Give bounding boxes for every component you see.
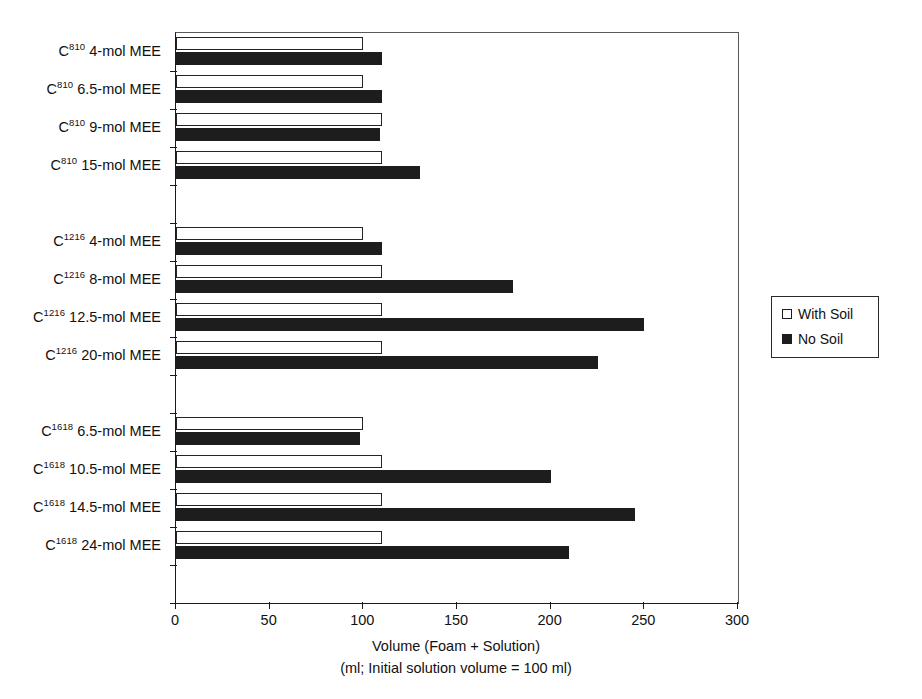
legend-item: No Soil: [782, 331, 843, 347]
legend-swatch-open-icon: [782, 309, 792, 319]
bar-no-soil: [176, 432, 360, 445]
y-axis-category-label: C1618 6.5-mol MEE: [0, 422, 167, 438]
category-suffix: 8-mol MEE: [85, 271, 161, 287]
category-prefix: C: [33, 499, 43, 515]
y-axis-tick: [170, 299, 177, 300]
y-axis-tick: [170, 451, 177, 452]
category-prefix: C: [59, 43, 69, 59]
plot-area: [175, 32, 739, 604]
category-prefix: C: [53, 271, 63, 287]
category-superscript: 1618: [52, 421, 74, 432]
bar-chart-figure: C810 4-mol MEEC810 6.5-mol MEEC810 9-mol…: [0, 0, 922, 699]
y-axis-category-label: C1216 4-mol MEE: [0, 232, 167, 248]
category-superscript: 1216: [64, 269, 86, 280]
x-axis-tick: [550, 602, 551, 609]
y-axis-category-label: C810 4-mol MEE: [0, 42, 167, 58]
category-suffix: 12.5-mol MEE: [65, 309, 161, 325]
x-axis-tick: [737, 602, 738, 609]
x-axis-tick-label: 300: [707, 612, 767, 628]
legend-label: No Soil: [798, 331, 843, 347]
y-axis-category-label: C810 9-mol MEE: [0, 118, 167, 134]
category-prefix: C: [51, 157, 61, 173]
bar-no-soil: [176, 356, 598, 369]
category-superscript: 1216: [44, 307, 66, 318]
category-superscript: 1216: [56, 345, 78, 356]
category-superscript: 1618: [44, 497, 66, 508]
x-axis-tick: [643, 602, 644, 609]
y-axis-category-label: C1618 14.5-mol MEE: [0, 498, 167, 514]
bar-no-soil: [176, 508, 635, 521]
category-prefix: C: [45, 537, 55, 553]
bar-no-soil: [176, 546, 569, 559]
bar-group-row: [176, 451, 738, 489]
x-axis-tick-label: 250: [613, 612, 673, 628]
category-suffix: 9-mol MEE: [85, 119, 161, 135]
y-axis-tick: [170, 109, 177, 110]
bar-with-soil: [176, 417, 363, 430]
category-suffix: 4-mol MEE: [85, 233, 161, 249]
category-suffix: 14.5-mol MEE: [65, 499, 161, 515]
y-axis-category-label: C1618 24-mol MEE: [0, 536, 167, 552]
y-axis-tick: [170, 375, 177, 376]
y-axis-category-label: C1618 10.5-mol MEE: [0, 460, 167, 476]
bar-no-soil: [176, 166, 420, 179]
bar-with-soil: [176, 341, 382, 354]
bar-group-row: [176, 223, 738, 261]
category-prefix: C: [33, 309, 43, 325]
bar-group-row: [176, 109, 738, 147]
bar-no-soil: [176, 90, 382, 103]
bar-with-soil: [176, 37, 363, 50]
bar-no-soil: [176, 470, 551, 483]
y-axis-tick: [170, 185, 177, 186]
bar-group-row: [176, 147, 738, 185]
x-axis-title-line2: (ml; Initial solution volume = 100 ml): [175, 660, 737, 676]
category-suffix: 15-mol MEE: [77, 157, 161, 173]
y-axis-category-label: C1216 8-mol MEE: [0, 270, 167, 286]
y-axis-tick: [170, 413, 177, 414]
y-axis-category-label: C810 15-mol MEE: [0, 156, 167, 172]
bar-with-soil: [176, 265, 382, 278]
category-superscript: 810: [61, 155, 77, 166]
category-superscript: 1618: [56, 535, 78, 546]
category-superscript: 810: [69, 41, 85, 52]
bar-group-row: [176, 71, 738, 109]
y-axis-tick: [170, 223, 177, 224]
y-axis-tick: [170, 527, 177, 528]
category-prefix: C: [45, 347, 55, 363]
y-axis-tick: [170, 337, 177, 338]
x-axis-tick: [175, 602, 176, 609]
x-axis-tick-label: 0: [145, 612, 205, 628]
x-axis-tick-label: 100: [332, 612, 392, 628]
category-suffix: 6.5-mol MEE: [73, 81, 161, 97]
bar-with-soil: [176, 531, 382, 544]
bar-with-soil: [176, 455, 382, 468]
bar-no-soil: [176, 280, 513, 293]
legend-item: With Soil: [782, 306, 853, 322]
bar-group-row: [176, 261, 738, 299]
category-superscript: 810: [57, 79, 73, 90]
bar-group-row: [176, 413, 738, 451]
x-axis-tick-label: 50: [239, 612, 299, 628]
x-axis-tick-marks: [175, 602, 737, 610]
category-suffix: 6.5-mol MEE: [73, 423, 161, 439]
y-axis-category-label: C810 6.5-mol MEE: [0, 80, 167, 96]
x-axis-tick: [362, 602, 363, 609]
category-suffix: 20-mol MEE: [77, 347, 161, 363]
y-axis-tick: [170, 489, 177, 490]
y-axis-tick: [170, 261, 177, 262]
x-axis-tick-label: 200: [520, 612, 580, 628]
y-axis-tick: [170, 147, 177, 148]
bar-no-soil: [176, 52, 382, 65]
category-suffix: 10.5-mol MEE: [65, 461, 161, 477]
bar-with-soil: [176, 493, 382, 506]
bar-group-row: [176, 527, 738, 565]
bar-no-soil: [176, 318, 644, 331]
bar-no-soil: [176, 242, 382, 255]
category-prefix: C: [41, 423, 51, 439]
legend-label: With Soil: [798, 306, 853, 322]
category-superscript: 1618: [44, 459, 66, 470]
x-axis-tick-label: 150: [426, 612, 486, 628]
category-superscript: 1216: [64, 231, 86, 242]
category-suffix: 24-mol MEE: [77, 537, 161, 553]
bar-with-soil: [176, 151, 382, 164]
